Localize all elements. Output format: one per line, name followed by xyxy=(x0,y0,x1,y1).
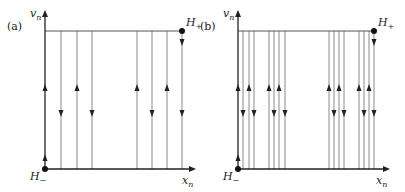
x-axis-arrowhead-icon xyxy=(383,166,390,172)
up-arrow-icon xyxy=(165,84,170,91)
up-arrow-icon xyxy=(135,84,140,91)
up-arrow-icon xyxy=(267,84,272,91)
down-arrow-icon xyxy=(150,110,155,117)
down-arrow-icon xyxy=(372,39,377,46)
down-arrow-icon xyxy=(272,110,277,117)
panel-label: (a) xyxy=(7,20,22,33)
y-axis-label: vn xyxy=(30,7,41,22)
up-arrow-icon xyxy=(357,84,362,91)
h-minus-point xyxy=(235,166,241,172)
h-minus-label: H− xyxy=(222,170,239,185)
x-axis-label: xn xyxy=(376,174,387,189)
down-arrow-icon xyxy=(283,110,288,117)
h-minus-point xyxy=(42,166,48,172)
down-arrow-icon xyxy=(90,110,95,117)
phase-diagram: (a)vnxnH+H−(b)vnxnH+H− xyxy=(0,0,405,192)
x-axis-arrowhead-icon xyxy=(189,166,196,172)
up-arrow-icon xyxy=(75,84,80,91)
y-axis-arrowhead-icon xyxy=(235,10,241,17)
down-arrow-icon xyxy=(332,110,337,117)
up-arrow-icon xyxy=(43,154,48,161)
h-plus-point xyxy=(371,28,377,34)
up-arrow-icon xyxy=(236,84,241,91)
up-arrow-icon xyxy=(367,84,372,91)
up-arrow-icon xyxy=(43,84,48,91)
down-arrow-icon xyxy=(362,110,367,117)
down-arrow-icon xyxy=(180,110,185,117)
down-arrow-icon xyxy=(59,110,64,117)
panel-label: (b) xyxy=(200,20,216,33)
down-arrow-icon xyxy=(180,39,185,46)
h-minus-label: H− xyxy=(29,170,46,185)
h-plus-label: H+ xyxy=(377,16,394,31)
h-plus-point xyxy=(179,28,185,34)
down-arrow-icon xyxy=(342,110,347,117)
up-arrow-icon xyxy=(236,154,241,161)
up-arrow-icon xyxy=(327,84,332,91)
y-axis-label: vn xyxy=(223,7,234,22)
panel-b: (b)vnxnH+H− xyxy=(200,7,394,189)
up-arrow-icon xyxy=(277,84,282,91)
down-arrow-icon xyxy=(241,110,246,117)
up-arrow-icon xyxy=(337,84,342,91)
y-axis-arrowhead-icon xyxy=(42,10,48,17)
up-arrow-icon xyxy=(247,84,252,91)
panel-a: (a)vnxnH+H− xyxy=(7,7,202,189)
x-axis-label: xn xyxy=(182,174,193,189)
down-arrow-icon xyxy=(372,110,377,117)
down-arrow-icon xyxy=(252,110,257,117)
